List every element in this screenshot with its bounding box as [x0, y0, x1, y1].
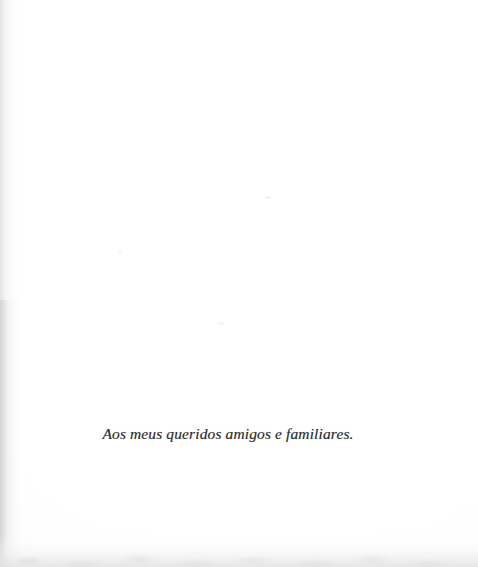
- dedication-text: Aos meus queridos amigos e familiares.: [102, 424, 353, 444]
- scan-speck: [118, 252, 122, 254]
- scan-speck: [219, 322, 224, 325]
- scan-trim-edge-texture: [0, 539, 478, 567]
- scanned-page: Aos meus queridos amigos e familiares.: [0, 0, 478, 567]
- paper-background: [0, 0, 478, 567]
- scan-speck: [265, 196, 271, 199]
- dedication-block: Aos meus queridos amigos e familiares.: [0, 424, 478, 444]
